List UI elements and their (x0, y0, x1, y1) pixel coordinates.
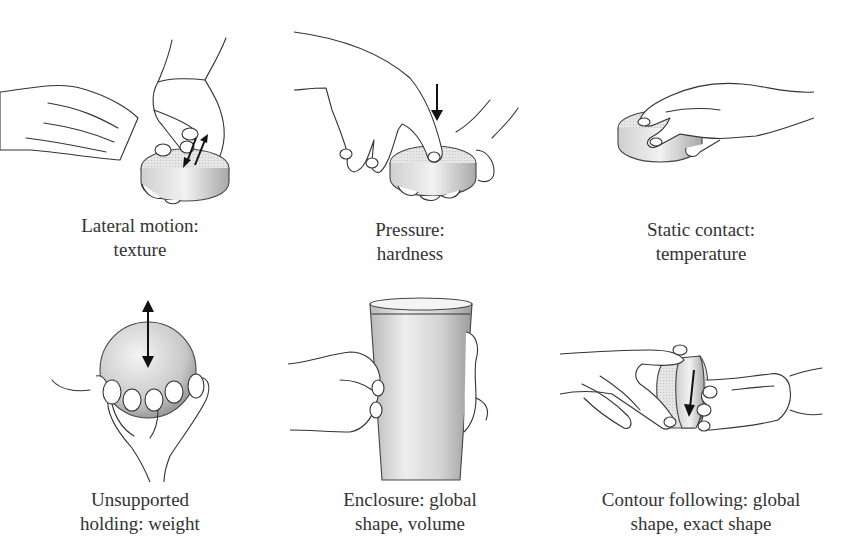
caption-unsupported-holding-line1: Unsupported (0, 488, 280, 512)
caption-pressure-line2: hardness (280, 242, 540, 266)
hand-resting-on-disc-icon (560, 0, 842, 210)
hands-enclosing-cup-icon (280, 280, 540, 485)
caption-lateral-motion-line2: texture (0, 238, 280, 262)
panel-lateral-motion: Lateral motion: texture (0, 0, 280, 270)
panel-static-contact: Static contact: temperature (560, 0, 842, 275)
caption-static-contact-line2: temperature (560, 242, 842, 266)
caption-static-contact-line1: Static contact: (560, 218, 842, 242)
hand-holding-sphere-with-up-down-arrow-icon (0, 280, 280, 485)
caption-contour-following-line2: shape, exact shape (560, 512, 842, 536)
panel-unsupported-holding: Unsupported holding: weight (0, 280, 280, 558)
caption-enclosure-line2: shape, volume (280, 512, 540, 536)
finger-pressing-disc-with-down-arrow-icon (280, 0, 540, 210)
caption-enclosure-line1: Enclosure: global (280, 488, 540, 512)
caption-contour-following-line1: Contour following: global (560, 488, 842, 512)
caption-unsupported-holding-line2: holding: weight (0, 512, 280, 536)
hand-rubbing-disc-with-double-arrow-icon (0, 0, 280, 210)
caption-pressure-line1: Pressure: (280, 218, 540, 242)
panel-enclosure: Enclosure: global shape, volume (280, 280, 540, 558)
panel-contour-following: Contour following: global shape, exact s… (560, 280, 842, 558)
panel-pressure: Pressure: hardness (280, 0, 540, 275)
caption-lateral-motion-line1: Lateral motion: (0, 214, 280, 238)
fingers-tracing-disc-edge-with-arrow-icon (560, 280, 842, 485)
